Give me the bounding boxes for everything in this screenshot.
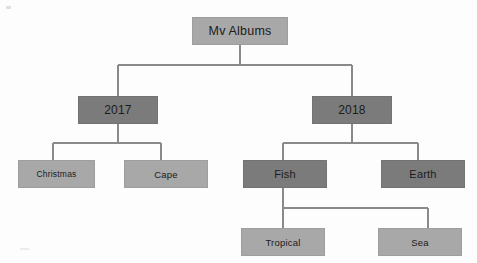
node-earth-label: Earth [409, 168, 436, 180]
node-year-2018[interactable]: 2018 [312, 96, 392, 124]
node-christmas[interactable]: Christmas [18, 160, 95, 188]
scan-artifact [6, 6, 11, 9]
node-cape[interactable]: Cape [124, 160, 208, 188]
node-root-label: Mv Albums [209, 24, 272, 38]
node-tropical[interactable]: Tropical [241, 228, 325, 256]
scan-artifact [20, 248, 29, 250]
node-sea-label: Sea [411, 237, 429, 248]
node-year-2017[interactable]: 2017 [78, 96, 158, 124]
diagram-canvas: Mv Albums 2017 2018 Christmas Cape Fish … [0, 0, 477, 263]
node-tropical-label: Tropical [265, 237, 300, 248]
node-cape-label: Cape [154, 169, 178, 180]
node-year-2018-label: 2018 [338, 103, 366, 117]
node-root[interactable]: Mv Albums [192, 17, 288, 45]
node-christmas-label: Christmas [36, 169, 76, 179]
node-earth[interactable]: Earth [381, 160, 465, 188]
node-fish[interactable]: Fish [243, 160, 327, 188]
node-fish-label: Fish [274, 168, 296, 180]
node-year-2017-label: 2017 [104, 103, 132, 117]
node-sea[interactable]: Sea [378, 228, 462, 256]
